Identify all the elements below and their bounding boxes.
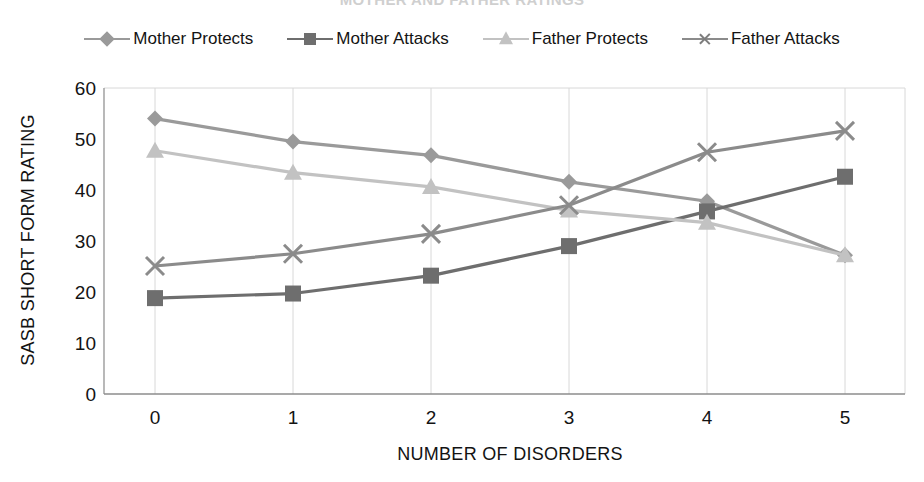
y-tick-label: 0 — [85, 384, 96, 405]
y-tick-label: 50 — [75, 129, 96, 150]
diamond-marker-icon — [147, 111, 163, 127]
diamond-marker-icon — [561, 174, 577, 190]
square-marker-icon — [561, 238, 577, 254]
plot-area: 6050403020100 012345 SASB SHORT FORM RAT… — [0, 0, 924, 482]
x-tick-label: 5 — [840, 407, 851, 428]
square-marker-icon — [423, 268, 439, 284]
line-chart-svg: 6050403020100 012345 SASB SHORT FORM RAT… — [0, 0, 924, 482]
y-axis-title: SASB SHORT FORM RATING — [18, 114, 38, 366]
series-mother-attacks — [147, 169, 853, 306]
diamond-marker-icon — [285, 134, 301, 150]
square-marker-icon — [837, 169, 853, 185]
x-tick-label: 4 — [702, 407, 713, 428]
square-marker-icon — [285, 286, 301, 302]
y-tick-label: 30 — [75, 231, 96, 252]
figure-root: MOTHER AND FATHER RATINGS Mother Protect… — [0, 0, 924, 482]
series-mother-protects — [147, 111, 853, 264]
diamond-marker-icon — [423, 147, 439, 163]
y-tick-label: 60 — [75, 78, 96, 99]
x-axis-title: NUMBER OF DISORDERS — [397, 444, 623, 464]
y-tick-label: 40 — [75, 180, 96, 201]
x-axis-tick-labels: 012345 — [150, 407, 851, 428]
y-axis-tick-labels: 6050403020100 — [75, 78, 96, 405]
x-tick-label: 2 — [426, 407, 437, 428]
x-tick-label: 3 — [564, 407, 575, 428]
y-tick-label: 10 — [75, 333, 96, 354]
x-tick-label: 1 — [288, 407, 299, 428]
triangle-marker-icon — [146, 142, 164, 158]
chart-series-group — [146, 111, 854, 307]
square-marker-icon — [147, 290, 163, 306]
y-tick-label: 20 — [75, 282, 96, 303]
x-tick-label: 0 — [150, 407, 161, 428]
